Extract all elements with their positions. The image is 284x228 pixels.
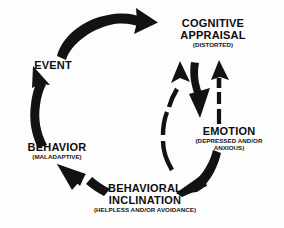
node-cognitive-appraisal-title-line2: APPRAISAL (158, 30, 268, 42)
node-behavioral-inclination-title-line2: INCLINATION (78, 195, 212, 207)
node-behavior-title: BEHAVIOR (10, 142, 104, 153)
node-emotion: EMOTION (DEPRESSED AND/OR ANXIOUS) (178, 126, 280, 151)
node-behavioral-inclination-title-line1: BEHAVIORAL (78, 183, 212, 195)
arrow-emotion-to-cognitive (211, 60, 229, 124)
arrow-event-to-cognitive (57, 8, 158, 60)
node-cognitive-appraisal: COGNITIVE APPRAISAL (DISTORTED) (158, 18, 268, 48)
node-emotion-subtitle-line2: ANXIOUS) (178, 145, 280, 151)
node-behavior: BEHAVIOR (MALADAPTIVE) (10, 142, 104, 160)
node-event-title: EVENT (18, 60, 88, 71)
arrow-cognitive-to-emotion (189, 62, 210, 118)
node-behavioral-inclination-subtitle: (HELPLESS AND/OR AVOIDANCE) (78, 207, 212, 213)
node-emotion-title: EMOTION (178, 126, 280, 137)
node-cognitive-appraisal-subtitle: (DISTORTED) (158, 42, 268, 48)
node-cognitive-appraisal-title-line1: COGNITIVE (158, 18, 268, 30)
node-behavior-subtitle: (MALADAPTIVE) (10, 154, 104, 160)
node-event: EVENT (18, 60, 88, 71)
cognitive-behavioral-cycle-diagram: EVENT COGNITIVE APPRAISAL (DISTORTED) EM… (0, 0, 284, 228)
arrow-behavioral-to-cognitive (163, 61, 190, 170)
arrow-behavior-to-event (30, 66, 50, 148)
node-behavioral-inclination: BEHAVIORAL INCLINATION (HELPLESS AND/OR … (78, 183, 212, 213)
